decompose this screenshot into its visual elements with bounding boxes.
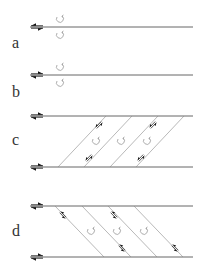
rotation-icon	[87, 227, 94, 234]
panel-d	[30, 202, 193, 260]
shear-arrows-icon	[170, 243, 179, 252]
fault-diagram	[0, 0, 205, 274]
shear-arrows-icon	[94, 120, 103, 129]
rotation-icon	[92, 137, 99, 144]
rotation-icon	[56, 15, 63, 22]
panel-b	[30, 63, 193, 86]
rotation-icon	[113, 227, 120, 234]
panel-c	[30, 112, 193, 170]
rotation-icon	[140, 227, 147, 234]
rotation-icon	[56, 79, 63, 86]
rotation-icon	[117, 137, 124, 144]
rotation-icon	[143, 137, 150, 144]
panel-a	[30, 15, 193, 38]
shear-arrows-icon	[109, 210, 118, 219]
rotation-icon	[56, 63, 63, 70]
rotation-icon	[56, 31, 63, 38]
shear-arrows-icon	[58, 210, 67, 219]
